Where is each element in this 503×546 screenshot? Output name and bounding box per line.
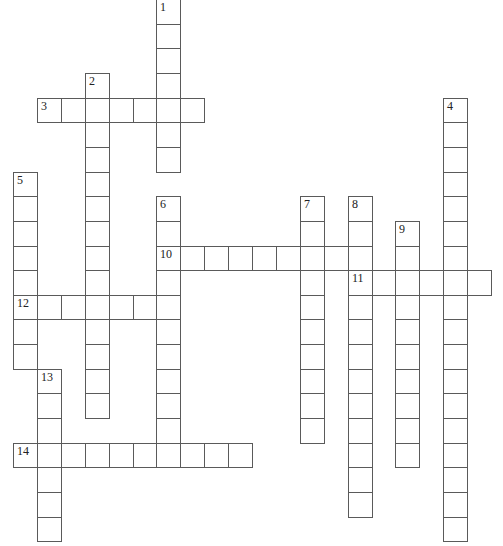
crossword-cell[interactable]	[37, 443, 62, 468]
crossword-cell[interactable]	[443, 270, 468, 296]
crossword-cell[interactable]	[156, 344, 181, 370]
crossword-cell[interactable]	[395, 319, 420, 345]
crossword-cell[interactable]	[109, 98, 134, 123]
crossword-cell[interactable]	[37, 517, 62, 542]
crossword-cell[interactable]	[348, 492, 373, 518]
crossword-cell[interactable]	[395, 270, 420, 296]
crossword-cell[interactable]: 6	[156, 196, 181, 222]
crossword-cell[interactable]	[300, 246, 325, 271]
crossword-cell[interactable]	[395, 443, 420, 468]
crossword-cell[interactable]	[395, 393, 420, 419]
crossword-cell[interactable]: 13	[37, 369, 62, 394]
crossword-cell[interactable]: 4	[443, 98, 468, 123]
crossword-cell[interactable]	[348, 221, 373, 247]
crossword-cell[interactable]	[419, 270, 444, 296]
crossword-cell[interactable]	[156, 319, 181, 345]
crossword-cell[interactable]	[395, 344, 420, 370]
crossword-cell[interactable]	[85, 147, 110, 173]
crossword-cell[interactable]	[443, 344, 468, 370]
crossword-cell[interactable]	[395, 295, 420, 320]
crossword-cell[interactable]: 2	[85, 73, 110, 99]
crossword-cell[interactable]	[348, 295, 373, 320]
crossword-cell[interactable]	[85, 172, 110, 197]
crossword-cell[interactable]	[276, 246, 301, 271]
crossword-cell[interactable]	[443, 443, 468, 468]
crossword-cell[interactable]	[443, 517, 468, 542]
crossword-cell[interactable]	[85, 196, 110, 222]
crossword-cell[interactable]	[156, 369, 181, 394]
crossword-cell[interactable]	[156, 443, 181, 468]
crossword-cell[interactable]	[443, 369, 468, 394]
crossword-cell[interactable]	[61, 443, 86, 468]
crossword-cell[interactable]	[85, 344, 110, 370]
crossword-cell[interactable]	[443, 319, 468, 345]
crossword-cell[interactable]	[133, 295, 157, 320]
crossword-cell[interactable]	[156, 418, 181, 444]
crossword-cell[interactable]: 8	[348, 196, 373, 222]
crossword-cell[interactable]	[13, 246, 38, 271]
crossword-cell[interactable]	[13, 344, 38, 370]
crossword-cell[interactable]	[85, 270, 110, 296]
crossword-cell[interactable]	[300, 221, 325, 247]
crossword-cell[interactable]	[85, 369, 110, 394]
crossword-cell[interactable]	[109, 443, 134, 468]
crossword-cell[interactable]	[228, 246, 253, 271]
crossword-cell[interactable]	[85, 393, 110, 419]
crossword-cell[interactable]	[395, 369, 420, 394]
crossword-cell[interactable]	[443, 393, 468, 419]
crossword-cell[interactable]	[156, 147, 181, 173]
crossword-cell[interactable]	[156, 24, 181, 49]
crossword-cell[interactable]	[443, 492, 468, 518]
crossword-cell[interactable]	[156, 393, 181, 419]
crossword-cell[interactable]	[156, 122, 181, 148]
crossword-cell[interactable]	[37, 467, 62, 493]
crossword-cell[interactable]	[300, 319, 325, 345]
crossword-cell[interactable]	[13, 221, 38, 247]
crossword-cell[interactable]	[85, 295, 110, 320]
crossword-cell[interactable]	[228, 443, 253, 468]
crossword-cell[interactable]	[85, 98, 110, 123]
crossword-cell[interactable]	[443, 147, 468, 173]
crossword-cell[interactable]	[252, 246, 277, 271]
crossword-cell[interactable]	[156, 73, 181, 99]
crossword-cell[interactable]	[37, 295, 62, 320]
crossword-cell[interactable]	[395, 246, 420, 271]
crossword-cell[interactable]	[348, 319, 373, 345]
crossword-cell[interactable]: 11	[348, 270, 373, 296]
crossword-cell[interactable]	[85, 246, 110, 271]
crossword-cell[interactable]	[348, 418, 373, 444]
crossword-cell[interactable]	[156, 270, 181, 296]
crossword-cell[interactable]	[13, 270, 38, 296]
crossword-cell[interactable]	[443, 122, 468, 148]
crossword-cell[interactable]	[37, 393, 62, 419]
crossword-cell[interactable]	[156, 295, 181, 320]
crossword-cell[interactable]: 12	[13, 295, 38, 320]
crossword-cell[interactable]	[85, 443, 110, 468]
crossword-cell[interactable]: 1	[156, 0, 181, 25]
crossword-cell[interactable]	[443, 172, 468, 197]
crossword-cell[interactable]: 14	[13, 443, 38, 468]
crossword-cell[interactable]	[156, 48, 181, 74]
crossword-cell[interactable]	[300, 270, 325, 296]
crossword-cell[interactable]	[13, 319, 38, 345]
crossword-cell[interactable]	[300, 295, 325, 320]
crossword-cell[interactable]	[13, 196, 38, 222]
crossword-cell[interactable]	[372, 270, 396, 296]
crossword-cell[interactable]	[37, 418, 62, 444]
crossword-cell[interactable]	[300, 418, 325, 444]
crossword-cell[interactable]	[37, 492, 62, 518]
crossword-cell[interactable]	[443, 467, 468, 493]
crossword-cell[interactable]	[180, 98, 205, 123]
crossword-cell[interactable]	[395, 418, 420, 444]
crossword-cell[interactable]	[348, 344, 373, 370]
crossword-cell[interactable]: 10	[156, 246, 181, 271]
crossword-cell[interactable]	[348, 369, 373, 394]
crossword-cell[interactable]	[133, 98, 157, 123]
crossword-cell[interactable]	[467, 270, 492, 296]
crossword-cell[interactable]	[85, 122, 110, 148]
crossword-cell[interactable]	[61, 98, 86, 123]
crossword-cell[interactable]: 3	[37, 98, 62, 123]
crossword-cell[interactable]	[61, 295, 86, 320]
crossword-cell[interactable]: 7	[300, 196, 325, 222]
crossword-cell[interactable]	[180, 443, 205, 468]
